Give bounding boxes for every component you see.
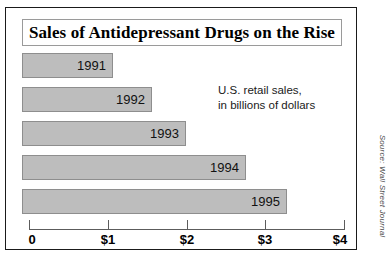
annotation-line-1: U.S. retail sales, — [218, 83, 315, 98]
plot-area: 1991 1992 1993 1994 1995 — [22, 53, 347, 243]
x-tick-4 — [344, 220, 345, 230]
bar-1995 — [22, 189, 287, 214]
bar-label-1992: 1992 — [116, 87, 145, 112]
x-tick-label-1: $1 — [101, 232, 115, 247]
x-tick-0 — [29, 220, 30, 230]
chart-annotation: U.S. retail sales, in billions of dollar… — [218, 83, 315, 113]
x-tick-1 — [108, 220, 109, 230]
x-tick-label-2: $2 — [180, 232, 194, 247]
x-tick-label-3: $3 — [258, 232, 272, 247]
bar-label-1993: 1993 — [150, 121, 179, 146]
source-credit-wrap: Source: Wall Street Journal — [375, 126, 389, 246]
x-tick-label-4: $4 — [333, 232, 347, 247]
annotation-line-2: in billions of dollars — [218, 98, 315, 113]
chart-title: Sales of Antidepressant Drugs on the Ris… — [29, 24, 335, 41]
bar-label-1995: 1995 — [251, 189, 280, 214]
x-tick-label-0: 0 — [28, 232, 35, 247]
bar-label-1991: 1991 — [77, 53, 106, 78]
source-credit: Source: Wall Street Journal — [378, 135, 387, 238]
chart-figure: Sales of Antidepressant Drugs on the Ris… — [0, 0, 389, 262]
chart-frame: Sales of Antidepressant Drugs on the Ris… — [5, 7, 357, 250]
chart-title-box: Sales of Antidepressant Drugs on the Ris… — [22, 19, 342, 46]
x-tick-2 — [187, 220, 188, 230]
x-axis: 0 $1 $2 $3 $4 — [22, 219, 347, 251]
bar-label-1994: 1994 — [210, 155, 239, 180]
x-tick-3 — [265, 220, 266, 230]
